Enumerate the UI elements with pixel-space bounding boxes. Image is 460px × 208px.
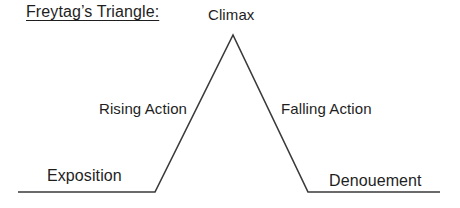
label-exposition: Exposition [47,167,122,185]
label-denouement: Denouement [329,172,422,190]
diagram-title: Freytag’s Triangle: [26,3,159,21]
label-falling-action: Falling Action [281,100,372,118]
label-climax: Climax [208,6,254,24]
label-rising-action: Rising Action [99,100,187,118]
